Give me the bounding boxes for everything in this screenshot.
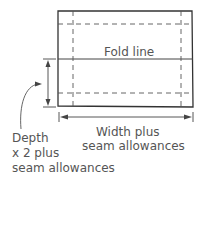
depth-dimension: [43, 59, 56, 107]
depth-label-line3: seam allowances: [12, 161, 115, 175]
fold-line-label: Fold line: [104, 45, 154, 59]
depth-label-line2: x 2 plus: [12, 146, 59, 160]
leader-arrow: [21, 82, 42, 130]
width-label-line2: seam allowances: [82, 139, 185, 153]
depth-label-line1: Depth: [12, 131, 49, 145]
width-label-line1: Width plus: [96, 125, 160, 139]
width-dimension: [59, 112, 193, 122]
